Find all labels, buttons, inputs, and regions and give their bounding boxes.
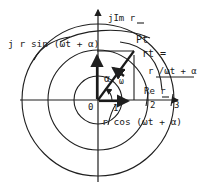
tick-label-3: 3: [174, 100, 179, 110]
rotation-arrow: [113, 68, 124, 76]
phasor-diagram: jIm r j r sin (ωt + α) Pt rt = r /ωt + α…: [0, 0, 200, 184]
phasor-name-label: rt =: [142, 48, 166, 59]
angle-arc: [106, 89, 112, 100]
imag-axis-label: jIm r: [108, 13, 136, 23]
point-label: Pt: [136, 34, 148, 45]
vertical-component-label: j r sin (ωt + α): [8, 38, 100, 49]
real-axis-label: Re r: [144, 86, 166, 96]
origin-label: 0: [88, 102, 93, 112]
tick-label-1: 1: [113, 103, 118, 113]
tick-label-2: 2: [150, 100, 155, 110]
horizontal-component-label: r cos (ωt + α): [102, 116, 182, 127]
phasor-polar-label: r /ωt + α: [148, 66, 197, 76]
angle-label: α: [104, 73, 110, 84]
omega-label: ω: [119, 77, 124, 86]
